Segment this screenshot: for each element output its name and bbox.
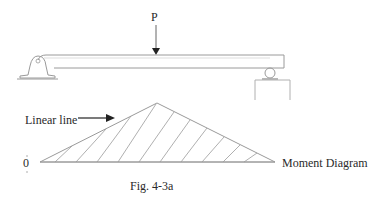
roller-support-icon bbox=[255, 68, 290, 100]
annotation-arrow-icon bbox=[78, 114, 115, 122]
load-arrow-icon bbox=[152, 25, 160, 55]
linear-line-label: Linear line bbox=[25, 113, 77, 127]
zero-label: 0 bbox=[23, 156, 29, 170]
moment-diagram-label: Moment Diagram bbox=[282, 156, 368, 170]
load-label: P bbox=[151, 10, 158, 24]
figure-caption: Fig. 4-3a bbox=[130, 179, 174, 193]
beam bbox=[38, 55, 284, 68]
moment-diagram bbox=[40, 103, 275, 162]
figure-canvas: P 0 bbox=[0, 0, 380, 201]
pin-support-icon bbox=[17, 56, 58, 79]
